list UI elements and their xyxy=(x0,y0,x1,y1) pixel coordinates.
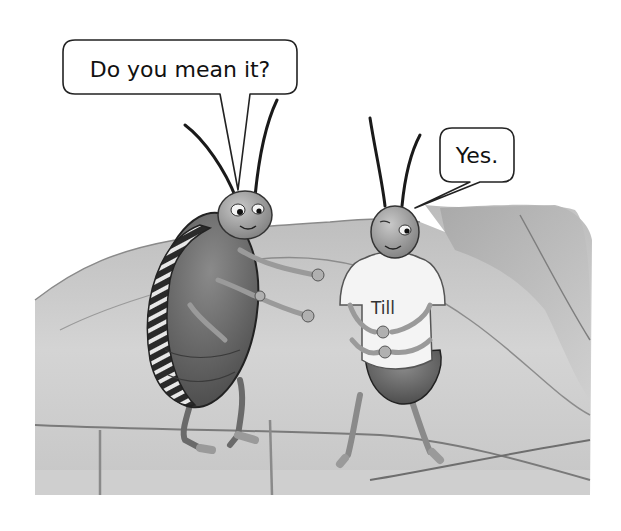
speech-bubble-right-text: Yes. xyxy=(455,143,499,168)
speech-bubble-left-text: Do you mean it? xyxy=(90,57,271,82)
shirt-text: Till xyxy=(370,298,395,318)
leaf xyxy=(35,205,592,495)
speech-bubble-left: Do you mean it? xyxy=(63,40,297,190)
illustration: Do you mean it? Yes. xyxy=(0,0,621,531)
speech-bubble-right: Yes. xyxy=(415,128,514,208)
